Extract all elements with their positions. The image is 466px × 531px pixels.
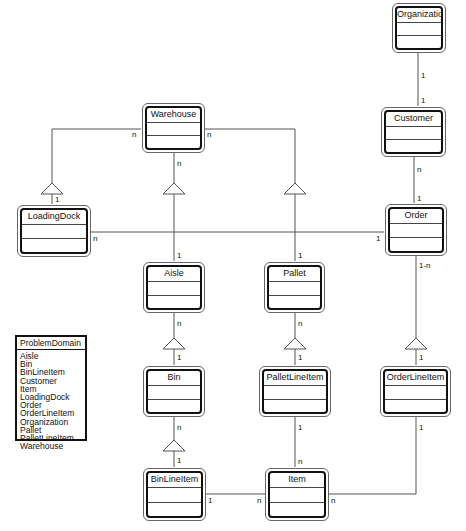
problem-domain-package: ProblemDomain Aisle Bin BinLineItem Cust… [15,335,87,441]
class-loadingdock[interactable]: LoadingDock [17,205,91,257]
attributes-section [386,127,441,139]
class-name: Order [390,209,442,224]
attributes-section [270,488,324,502]
package-class-list: Aisle Bin BinLineItem Customer Item Load… [17,352,85,450]
operations-section [264,399,326,413]
multiplicity-label: 1 [419,354,423,362]
class-name: LoadingDock [22,210,86,225]
operations-section [22,238,86,252]
attributes-section [385,386,446,399]
operations-section [397,35,441,48]
multiplicity-label: 1 [208,497,212,505]
class-order[interactable]: Order [385,204,447,256]
multiplicity-label: 1 [177,457,181,465]
class-name: PalletLineItem [264,371,326,386]
package-list-item: Warehouse [20,442,85,450]
multiplicity-label: n [207,131,211,139]
multiplicity-label: 1 [55,196,59,204]
attributes-section [264,386,326,399]
operations-section [148,295,200,309]
attributes-section [148,488,201,502]
class-binlineitem[interactable]: BinLineItem [143,468,206,521]
multiplicity-label: 1 [419,424,423,432]
attributes-section [148,282,200,295]
class-name: OrderLineItem [385,371,446,386]
multiplicity-label: n [177,424,181,432]
multiplicity-label: n [93,235,97,243]
class-name: Customer [386,112,441,127]
multiplicity-label: 1 [298,252,302,260]
multiplicity-label: 1 [421,97,425,105]
multiplicity-label: 1 [417,195,421,203]
class-organization[interactable]: Organization [392,3,446,53]
attributes-section [397,23,441,35]
class-warehouse[interactable]: Warehouse [142,103,205,153]
multiplicity-label: 1 [177,354,181,362]
operations-section [386,139,441,152]
multiplicity-label: n [417,166,421,174]
operations-section [148,502,201,517]
class-name: Aisle [148,267,200,282]
multiplicity-label: n [177,320,181,328]
multiplicity-label: 1 [298,424,302,432]
package-title: ProblemDomain [17,337,85,350]
class-aisle[interactable]: Aisle [143,262,205,313]
operations-section [147,135,200,148]
class-palletlineitem[interactable]: PalletLineItem [259,366,331,417]
class-name: Warehouse [147,108,200,123]
operations-section [270,502,324,517]
multiplicity-label: 1 [177,252,181,260]
multiplicity-label: n [331,497,335,505]
operations-section [269,295,320,309]
multiplicity-label: 1-n [419,262,431,270]
connector-lines [0,0,466,531]
multiplicity-label: n [177,160,181,168]
class-customer[interactable]: Customer [381,107,446,157]
class-name: Item [270,473,324,488]
operations-section [390,237,442,251]
attributes-section [269,282,320,295]
class-orderlineitem[interactable]: OrderLineItem [380,366,451,417]
attributes-section [147,123,200,135]
uml-diagram-canvas: Organization Customer Warehouse LoadingD… [0,0,466,531]
multiplicity-label: 1 [421,72,425,80]
operations-section [148,399,200,413]
multiplicity-label: n [298,320,302,328]
class-name: Bin [148,371,200,386]
class-name: BinLineItem [148,473,201,488]
attributes-section [148,386,200,399]
class-name: Organization [397,8,441,23]
class-name: Pallet [269,267,320,282]
class-pallet[interactable]: Pallet [264,262,325,313]
class-item[interactable]: Item [265,468,329,521]
class-bin[interactable]: Bin [143,366,205,417]
multiplicity-label: 1 [298,354,302,362]
multiplicity-label: n [132,131,136,139]
multiplicity-label: n [257,497,261,505]
multiplicity-label: n [298,458,302,466]
multiplicity-label: 1 [376,235,380,243]
attributes-section [22,225,86,238]
attributes-section [390,224,442,237]
operations-section [385,399,446,413]
